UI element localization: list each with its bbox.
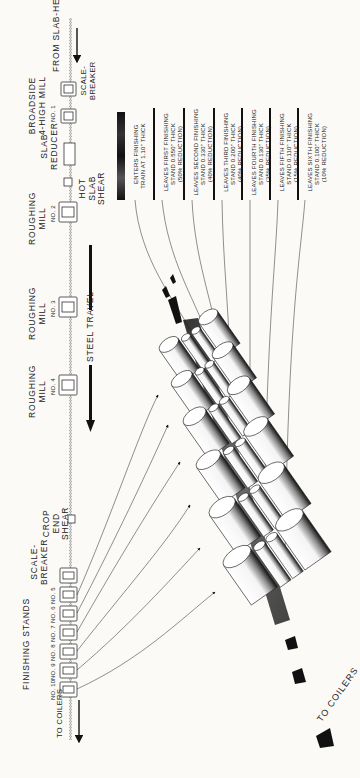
annotation-stand4: LEAVES FOURTH FINISHING STAND 0.130" THI… xyxy=(244,108,272,200)
source-label: FROM SLAB-HEATING FURNACES xyxy=(52,0,62,72)
roll-stacks xyxy=(156,306,331,607)
sink-label: TO COILERS xyxy=(56,689,65,738)
station-sub-roughing-mill-3: NO. 3 xyxy=(50,300,57,317)
stand-no-6: NO. 6 xyxy=(50,606,57,623)
stand-no-7: NO. 7 xyxy=(50,625,57,642)
annotation-stand6: LEAVES SIXTH FINISHING STAND 0.100" THIC… xyxy=(300,108,328,200)
annotation-stand2: LEAVES SECOND FINISHING STAND 0.330" THI… xyxy=(186,108,214,200)
station-sub-roughing-mill-4: NO. 4 xyxy=(50,378,57,395)
annotation-stand3-text: LEAVES THIRD FINISHING STAND 0.200" THIC… xyxy=(223,113,243,192)
station-label-roughing-mill-2: ROUGHING MILL xyxy=(28,192,47,245)
station-label-roughing-mill-4: ROUGHING MILL xyxy=(28,365,47,418)
station-label-scale-breaker-1: SCALE- BREAKER xyxy=(80,61,97,100)
annotation-stand6-text: LEAVES SIXTH FINISHING STAND 0.100" THIC… xyxy=(307,113,327,192)
annotation-stand1: LEAVES FIRST FINISHING STAND 0.550" THIC… xyxy=(156,108,184,200)
steel-travel-label: STEEL TRAVEL xyxy=(86,291,96,362)
annotation-enter-text: ENTERS FINISHING TRAIN AT 1.10" THICK xyxy=(133,123,146,188)
station-sub-broadside-mill: NO. 1 xyxy=(50,105,57,122)
annotation-stand5: LEAVES FIFTH FINISHING STAND 0.110" THIC… xyxy=(272,108,300,200)
annotation-enter: ENTERS FINISHING TRAIN AT 1.10" THICK xyxy=(126,112,147,200)
annotation-stand1-text: LEAVES FIRST FINISHING STAND 0.550" THIC… xyxy=(163,113,183,191)
annotation-stand5-text: LEAVES FIFTH FINISHING STAND 0.110" THIC… xyxy=(279,113,299,191)
stand-no-5: NO. 5 xyxy=(50,587,57,604)
finishing-stands-label: FINISHING STANDS xyxy=(22,598,32,690)
station-label-roughing-mill-3: ROUGHING MILL xyxy=(28,287,47,340)
station-label-crop-end-shear: CROP END SHEAR xyxy=(42,507,71,540)
stations xyxy=(59,82,77,697)
station-label-slab-reducer: SLAB REDUCER xyxy=(40,122,59,170)
annotation-stand3: LEAVES THIRD FINISHING STAND 0.200" THIC… xyxy=(216,108,244,200)
annotation-stand4-text: LEAVES FOURTH FINISHING STAND 0.130" THI… xyxy=(251,109,271,195)
station-label-scale-breaker-2: SCALE- BREAKER xyxy=(30,539,49,585)
stand-no-8: NO. 8 xyxy=(50,644,57,661)
station-label-hot-slab-shear: HOT SLAB SHEAR xyxy=(78,172,107,205)
station-sub-roughing-mill-2: NO. 2 xyxy=(50,205,57,222)
stand-no-9: NO. 9 xyxy=(50,663,57,680)
annotation-stand2-text: LEAVES SECOND FINISHING STAND 0.330" THI… xyxy=(193,109,213,196)
